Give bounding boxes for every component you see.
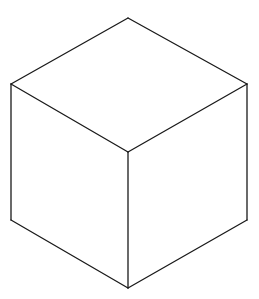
cube-icon [0,0,259,299]
cube-diagram-canvas [0,0,259,299]
cube-faces [11,18,247,288]
